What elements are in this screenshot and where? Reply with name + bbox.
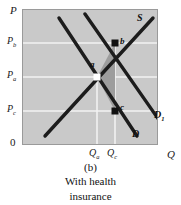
point-label-c: c [120, 103, 124, 112]
x-tick-qa: Qa [89, 148, 99, 161]
x-axis-title: Q [167, 149, 175, 160]
supply-curve-label: S [137, 13, 143, 23]
x-tick-qc: Qc [107, 148, 117, 161]
figure-caption: (b) With health insurance [0, 160, 181, 204]
y-axis-title: P [10, 5, 17, 16]
demand-curve-label: D [132, 129, 139, 139]
point-marker-a [94, 74, 101, 81]
caption-panel-id: (b) [0, 160, 181, 174]
y-tick-pa-sub: a [13, 75, 16, 82]
plot-canvas [23, 10, 158, 145]
y-tick-pc-sub: c [13, 109, 16, 116]
demand-shifted-curve-label: D1 [154, 110, 164, 123]
point-label-b: b [120, 37, 125, 46]
y-tick-pb: Pb [7, 36, 16, 49]
y-tick-pc: Pc [7, 104, 16, 117]
x-tick-qa-sub: a [96, 153, 99, 160]
point-label-a: a [90, 60, 95, 69]
plot-panel [22, 9, 158, 145]
x-tick-qc-sub: c [114, 153, 117, 160]
economics-supply-demand-figure: P Q 0 Pb Pa Pc Qa Qc S D D1 a b c (b) Wi… [0, 0, 181, 205]
y-tick-pb-sub: b [13, 41, 16, 48]
origin-label: 0 [10, 137, 16, 148]
caption-line-2: insurance [0, 189, 181, 204]
demand-shifted-label-sub: 1 [161, 115, 164, 122]
caption-line-1: With health [0, 174, 181, 189]
point-marker-c [112, 108, 119, 115]
y-tick-pa: Pa [7, 70, 16, 83]
point-marker-b [112, 40, 119, 47]
